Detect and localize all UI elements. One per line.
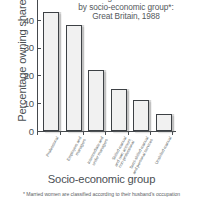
plot-area [37,0,176,131]
x-tickmark-3 [105,131,106,135]
x-tickmark-6 [172,131,173,135]
y-tick-label-10: 10 [8,99,34,108]
bar-professional [43,12,59,132]
y-tick-label-40: 40 [8,16,34,25]
y-tick-label-30: 30 [8,43,34,52]
x-tickmark-1 [60,131,61,135]
bar-intermediate [88,70,104,131]
bar-unskilled-manual [156,114,172,131]
x-category-label-unskilled-manual: Unskilled manual [154,136,172,165]
x-tickmark-0 [37,131,38,135]
bar-skilled-manual [111,89,127,131]
bar-employers-managers [66,25,82,131]
x-tickmark-2 [83,131,84,135]
y-tick-label-20: 20 [8,71,34,80]
x-axis-title: Socio-economic group [0,173,203,185]
bar-chart-figure: Percentage of share-owners by socio-econ… [0,0,203,204]
y-tick-label-0: 0 [8,127,34,136]
x-tickmark-4 [128,131,129,135]
x-tickmark-5 [150,131,151,135]
bar-semi-skilled-manual [133,100,149,131]
x-category-label-professional: Professional [46,136,60,158]
x-category-label-intermediate: Intermediate and under managers [87,136,109,167]
y-axis-ticks: 50 40 30 20 10 0 [3,0,34,140]
chart-footnote: * Married women are classified according… [0,191,203,197]
x-category-label-employers-managers: Employers and managers [66,136,87,164]
